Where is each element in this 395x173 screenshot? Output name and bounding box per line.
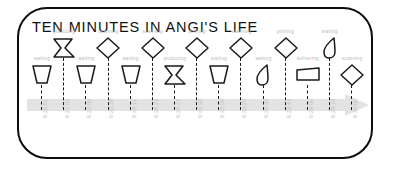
timeline-event[interactable]: scanning6:30:00 — [326, 0, 378, 173]
event-timestamp: 6:30:00 — [352, 99, 358, 118]
event-activity-label: scanning — [326, 56, 378, 61]
diamond-icon — [338, 63, 366, 87]
timeline-events: waiting6:20:01producing6:21:02waiting6:2… — [0, 0, 395, 173]
diagram-canvas: TEN MINUTES IN ANGI'S LIFE waiting6:20:0… — [0, 0, 395, 173]
